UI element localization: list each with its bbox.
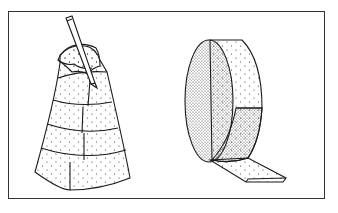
wrapped-cone <box>35 16 130 190</box>
material-roll <box>185 40 286 182</box>
illustration <box>0 0 338 213</box>
